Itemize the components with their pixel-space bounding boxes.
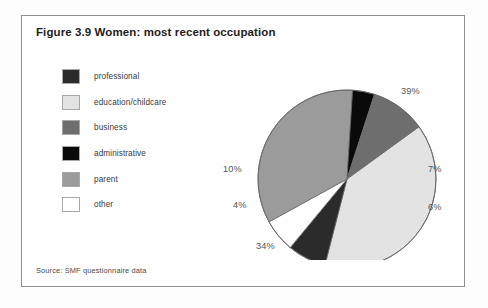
legend-swatch-professional xyxy=(62,69,80,84)
pie-label-7: 7% xyxy=(428,164,442,174)
legend-label-professional: professional xyxy=(94,72,139,81)
legend-swatch-parent xyxy=(62,172,80,187)
legend-swatch-administrative xyxy=(62,146,80,161)
legend-label-other: other xyxy=(94,200,113,209)
legend-swatch-education-childcare xyxy=(62,95,80,110)
legend-label-education-childcare: education/childcare xyxy=(94,98,166,107)
legend-label-administrative: administrative xyxy=(94,149,146,158)
pie-label-34: 34% xyxy=(256,241,275,251)
pie-chart: 39% 7% 6% 34% 4% 10% xyxy=(215,60,465,260)
pie-label-4: 4% xyxy=(233,200,247,210)
source-note: Source: SMF questionnaire data xyxy=(36,266,147,275)
legend-label-parent: parent xyxy=(94,175,118,184)
pie-label-10: 10% xyxy=(223,164,242,174)
pie-label-6: 6% xyxy=(428,202,442,212)
figure-frame: Figure 3.9 Women: most recent occupation… xyxy=(21,15,465,287)
legend-label-business: business xyxy=(94,123,127,132)
legend-swatch-other xyxy=(62,197,80,212)
legend-swatch-business xyxy=(62,120,80,135)
page-title: Figure 3.9 Women: most recent occupation xyxy=(36,26,276,38)
pie-label-39: 39% xyxy=(401,86,420,96)
figure-root: Figure 3.9 Women: most recent occupation… xyxy=(0,0,488,308)
pie-chart-svg xyxy=(215,60,465,260)
